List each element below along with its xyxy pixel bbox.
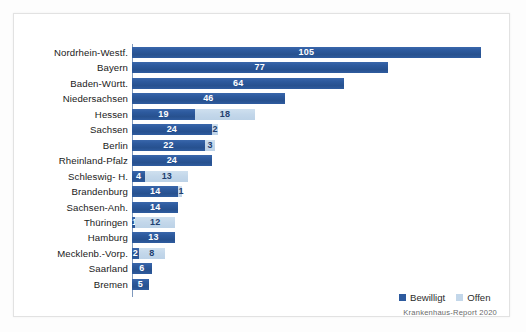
bar-row: Brandenburg141 <box>14 184 511 199</box>
bar-value-label: 1 <box>178 186 181 197</box>
bar-segment-offen[interactable]: 18 <box>195 109 255 120</box>
stacked-bar[interactable]: 13 <box>132 232 175 243</box>
bar-value-label: 46 <box>132 93 285 104</box>
bar-segment-bewilligt[interactable]: 6 <box>132 263 152 274</box>
category-label: Rheinland-Pfalz <box>59 153 128 168</box>
category-label: Thüringen <box>84 215 128 230</box>
legend-label-bewilligt: Bewilligt <box>410 292 445 303</box>
category-label: Brandenburg <box>71 184 128 199</box>
bar-segment-bewilligt[interactable]: 77 <box>132 62 388 73</box>
stacked-bar[interactable]: 105 <box>132 47 481 58</box>
bar-value-label: 4 <box>132 171 145 182</box>
stacked-bar[interactable]: 6 <box>132 263 152 274</box>
bar-row: Bayern77 <box>14 60 511 75</box>
bar-row: Sachsen242 <box>14 122 511 137</box>
bar-row: Hessen1918 <box>14 107 511 122</box>
bar-value-label: 105 <box>132 47 481 58</box>
legend-item-bewilligt[interactable]: Bewilligt <box>399 292 445 303</box>
legend-swatch-offen <box>456 294 463 301</box>
stacked-bar[interactable]: 64 <box>132 78 344 89</box>
bar-value-label: 77 <box>132 62 388 73</box>
bar-value-label: 19 <box>132 109 195 120</box>
legend-swatch-bewilligt <box>399 294 406 301</box>
category-label: Hamburg <box>88 230 128 245</box>
bar-segment-offen[interactable]: 13 <box>145 171 188 182</box>
bar-row: Schleswig- H.413 <box>14 169 511 184</box>
bar-value-label: 22 <box>132 140 205 151</box>
bar-row: Nordrhein-Westf.105 <box>14 45 511 60</box>
bar-row: Baden-Württ.64 <box>14 76 511 91</box>
bar-value-label: 12 <box>135 217 175 228</box>
bar-segment-bewilligt[interactable]: 5 <box>132 279 149 290</box>
bar-segment-bewilligt[interactable]: 22 <box>132 140 205 151</box>
bar-chart-plot: Nordrhein-Westf.105Bayern77Baden-Württ.6… <box>14 14 511 318</box>
category-label: Sachsen-Anh. <box>67 200 128 215</box>
category-label: Bremen <box>94 277 128 292</box>
source-caption: Krankenhaus-Report 2020 <box>403 308 497 317</box>
bar-value-label: 13 <box>132 232 175 243</box>
bar-segment-bewilligt[interactable]: 19 <box>132 109 195 120</box>
bar-segment-bewilligt[interactable]: 14 <box>132 186 178 197</box>
category-label: Hessen <box>95 107 128 122</box>
bar-value-label: 2 <box>212 124 219 135</box>
bar-row: Niedersachsen46 <box>14 91 511 106</box>
bar-row: Berlin223 <box>14 138 511 153</box>
stacked-bar[interactable]: 242 <box>132 124 218 135</box>
bar-segment-bewilligt[interactable]: 24 <box>132 155 212 166</box>
category-label: Bayern <box>97 60 128 75</box>
bar-value-label: 6 <box>132 263 152 274</box>
stacked-bar[interactable]: 413 <box>132 171 188 182</box>
legend-label-offen: Offen <box>467 292 490 303</box>
category-label: Mecklenb.-Vorp. <box>57 246 128 261</box>
bar-segment-bewilligt[interactable]: 64 <box>132 78 344 89</box>
bar-segment-bewilligt[interactable]: 4 <box>132 171 145 182</box>
bar-segment-bewilligt[interactable]: 13 <box>132 232 175 243</box>
category-label: Berlin <box>103 138 128 153</box>
figure-container: Nordrhein-Westf.105Bayern77Baden-Württ.6… <box>0 0 526 332</box>
category-label: Saarland <box>89 261 128 276</box>
bar-value-label: 14 <box>132 202 178 213</box>
stacked-bar[interactable]: 24 <box>132 155 212 166</box>
bar-row: Mecklenb.-Vorp.28 <box>14 246 511 261</box>
stacked-bar[interactable]: 28 <box>132 248 165 259</box>
stacked-bar[interactable]: 5 <box>132 279 149 290</box>
stacked-bar[interactable]: 1918 <box>132 109 255 120</box>
chart-legend: Bewilligt Offen <box>399 290 491 304</box>
stacked-bar[interactable]: 223 <box>132 140 215 151</box>
stacked-bar[interactable]: 14 <box>132 202 178 213</box>
bar-row: Sachsen-Anh.14 <box>14 200 511 215</box>
bar-segment-offen[interactable]: 12 <box>135 217 175 228</box>
stacked-bar[interactable]: 77 <box>132 62 388 73</box>
bar-value-label: 13 <box>145 171 188 182</box>
bar-value-label: 24 <box>132 155 212 166</box>
category-label: Nordrhein-Westf. <box>54 45 128 60</box>
bar-segment-offen[interactable]: 8 <box>139 248 166 259</box>
legend-item-offen[interactable]: Offen <box>456 292 490 303</box>
bar-value-label: 64 <box>132 78 344 89</box>
bar-value-label: 8 <box>139 248 166 259</box>
bar-segment-bewilligt[interactable]: 105 <box>132 47 481 58</box>
bar-segment-offen[interactable]: 2 <box>212 124 219 135</box>
stacked-bar[interactable]: 46 <box>132 93 285 104</box>
category-label: Schleswig- H. <box>68 169 128 184</box>
bar-value-label: 2 <box>132 248 139 259</box>
bar-row: Rheinland-Pfalz24 <box>14 153 511 168</box>
bar-segment-bewilligt[interactable]: 14 <box>132 202 178 213</box>
bar-value-label: 5 <box>132 279 149 290</box>
category-label: Niedersachsen <box>63 91 128 106</box>
bar-value-label: 24 <box>132 124 212 135</box>
bar-value-label: 14 <box>132 186 178 197</box>
bar-value-label: 18 <box>195 109 255 120</box>
stacked-bar[interactable]: 112 <box>132 217 175 228</box>
bar-segment-bewilligt[interactable]: 2 <box>132 248 139 259</box>
stacked-bar[interactable]: 141 <box>132 186 182 197</box>
bar-row: Thüringen112 <box>14 215 511 230</box>
bar-segment-offen[interactable]: 1 <box>178 186 181 197</box>
chart-frame: Nordrhein-Westf.105Bayern77Baden-Württ.6… <box>13 13 510 317</box>
bar-value-label: 3 <box>205 140 215 151</box>
bar-segment-offen[interactable]: 3 <box>205 140 215 151</box>
bar-row: Hamburg13 <box>14 230 511 245</box>
bar-segment-bewilligt[interactable]: 46 <box>132 93 285 104</box>
category-label: Sachsen <box>90 122 128 137</box>
bar-segment-bewilligt[interactable]: 24 <box>132 124 212 135</box>
